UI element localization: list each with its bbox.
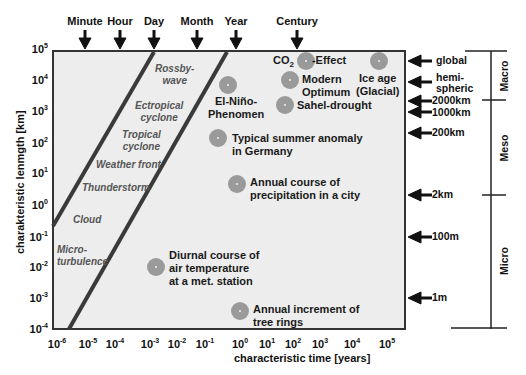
right-arrows <box>408 55 432 304</box>
y-tick: 101 <box>18 166 48 179</box>
example-dot-precipitation <box>228 175 246 193</box>
example-dot-sahel <box>276 96 294 114</box>
y-tick: 10-1 <box>18 230 48 243</box>
example-label-diurnal: Diurnal course ofair temperatureat a met… <box>169 249 259 288</box>
example-label-summer-anomaly: Typical summer anomalyin Germany <box>232 132 363 158</box>
marker-hour: Hour <box>107 15 133 27</box>
x-tick: 102 <box>285 337 301 350</box>
marker-day: Day <box>144 15 164 27</box>
y-tick: 10-3 <box>18 291 48 304</box>
marker-month: Month <box>181 15 214 27</box>
example-label-sahel: Sahel-drought <box>297 99 372 112</box>
x-axis-label: characteristic time [years] <box>234 352 370 364</box>
band-label-weather-front: Weather front <box>96 159 161 171</box>
scale-label-100m: 100m <box>432 231 459 242</box>
y-tick: 10-4 <box>18 322 48 335</box>
marker-year: Year <box>224 15 247 27</box>
y-tick: 105 <box>18 42 48 55</box>
band-label-rossby-wave: Rossby-wave <box>155 63 194 87</box>
x-tick: 10-6 <box>48 337 66 350</box>
example-label-co2: CO2-Effect <box>273 54 346 71</box>
y-tick: 103 <box>18 104 48 117</box>
scale-label-2000km: 2000km <box>432 95 471 106</box>
region-label-meso: Meso <box>498 128 510 168</box>
band-label-ectropical-cyclone: Ectropicalcyclone <box>135 100 183 124</box>
scale-label-1000km: 1000km <box>432 107 471 118</box>
x-tick: 10-3 <box>141 337 159 350</box>
x-tick: 101 <box>259 337 275 350</box>
y-tick: 100 <box>18 198 48 211</box>
y-tick: 102 <box>18 136 48 149</box>
example-label-precipitation: Annual course ofprecipitation in a city <box>250 176 360 202</box>
scale-label-1m: 1m <box>432 292 447 303</box>
example-label-el-nino: El-Niño-Phenomen <box>208 95 264 121</box>
example-dot-ice-age <box>370 52 388 70</box>
marker-minute: Minute <box>67 15 102 27</box>
x-tick: 10-4 <box>106 337 124 350</box>
example-label-tree-rings: Annual increment oftree rings <box>253 303 359 329</box>
x-tick: 10-5 <box>79 337 97 350</box>
region-label-macro: Macro <box>498 56 510 96</box>
x-tick: 103 <box>312 337 328 350</box>
example-dot-summer-anomaly <box>209 129 227 147</box>
x-tick: 105 <box>379 337 395 350</box>
x-tick: 104 <box>344 337 360 350</box>
x-tick: 100 <box>232 337 248 350</box>
y-tick: 10-2 <box>18 260 48 273</box>
x-tick: 10-2 <box>168 337 186 350</box>
top-arrows <box>79 30 303 49</box>
example-label-ice-age: Ice age(Glacial) <box>356 72 399 98</box>
example-dot-modern-optimum <box>281 71 299 89</box>
band-label-micro-turbulence: Micro-turbulence <box>57 244 108 268</box>
band-label-tropical-cyclone: Tropicalcyclone <box>122 129 161 153</box>
scale-label-global: global <box>436 55 467 66</box>
example-dot-tree-rings <box>231 302 249 320</box>
scale-label-200km: 200km <box>432 127 465 138</box>
example-dot-diurnal <box>147 258 165 276</box>
example-label-modern-optimum: ModernOptimum <box>302 73 350 99</box>
region-label-micro: Micro <box>498 241 510 281</box>
x-tick: 10-1 <box>196 337 214 350</box>
marker-century: Century <box>276 15 318 27</box>
y-tick: 104 <box>18 73 48 86</box>
example-dot-el-nino <box>219 76 237 94</box>
band-label-cloud: Cloud <box>73 214 101 226</box>
scale-label-hemispheric: hemi-spheric <box>436 72 473 94</box>
scale-label-2km: 2km <box>432 189 453 200</box>
band-label-thunderstorm: Thunderstorm <box>82 182 150 194</box>
